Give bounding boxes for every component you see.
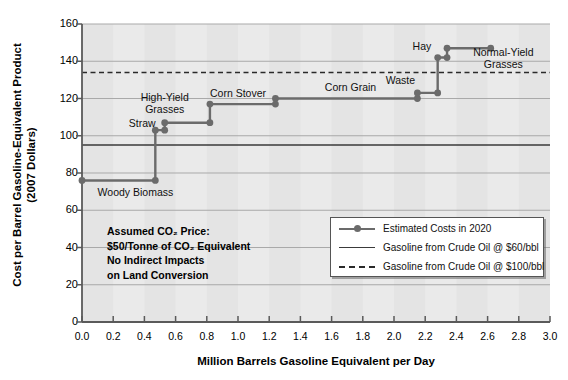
legend-label-crude-60: Gasoline from Crude Oil @ $60/bbl <box>377 242 539 253</box>
x-tick-label: 3.0 <box>530 330 568 342</box>
data-point <box>434 90 441 97</box>
data-point <box>207 101 214 108</box>
annotation-line-3: No Indirect Impacts <box>107 253 250 268</box>
data-point <box>207 119 214 126</box>
legend-key-solid-line-icon <box>337 242 377 254</box>
point-label: Corn Grain <box>325 81 376 93</box>
point-label: Corn Stover <box>210 87 266 99</box>
chart-root: Cost per Barrel Gasoline-Equivalent Prod… <box>0 0 568 380</box>
annotation-line-1: Assumed CO₂ Price: <box>107 224 250 239</box>
point-label: Waste <box>386 74 415 86</box>
data-point <box>161 127 168 134</box>
legend: Estimated Costs in 2020 Gasoline from Cr… <box>330 217 544 277</box>
x-axis-title: Million Barrels Gasoline Equivalent per … <box>82 355 550 367</box>
legend-key-dashed-line-icon <box>337 261 377 273</box>
legend-item-crude-100: Gasoline from Crude Oil @ $100/bbl <box>331 258 543 275</box>
point-label: Woody Biomass <box>98 186 174 198</box>
data-point <box>414 90 421 97</box>
data-point <box>152 177 159 184</box>
legend-item-estimated-costs: Estimated Costs in 2020 <box>331 220 543 237</box>
legend-item-crude-60: Gasoline from Crude Oil @ $60/bbl <box>331 239 543 256</box>
data-point <box>434 54 441 61</box>
data-point <box>79 177 86 184</box>
legend-label-estimated-costs: Estimated Costs in 2020 <box>377 223 491 234</box>
assumptions-annotation: Assumed CO₂ Price: $50/Tonne of CO₂ Equi… <box>107 224 250 282</box>
point-label: Hay <box>413 40 432 52</box>
legend-key-marker-line-icon <box>337 223 377 235</box>
legend-label-crude-100: Gasoline from Crude Oil @ $100/bbl <box>377 261 544 272</box>
data-point <box>161 119 168 126</box>
data-point <box>444 54 451 61</box>
point-label: Normal-YieldGrasses <box>473 46 533 70</box>
point-label: High-YieldGrasses <box>141 91 189 115</box>
data-point <box>444 45 451 52</box>
data-point <box>272 95 279 102</box>
point-label: Straw <box>129 117 156 129</box>
annotation-line-4: on Land Conversion <box>107 268 250 283</box>
annotation-line-2: $50/Tonne of CO₂ Equivalent <box>107 239 250 254</box>
